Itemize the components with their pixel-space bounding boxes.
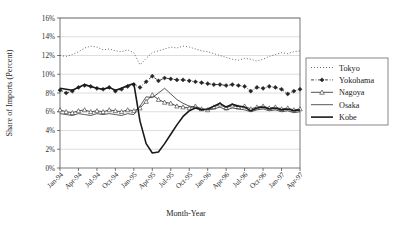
series-layer [58,46,302,153]
marker-diamond [181,78,185,82]
marker-diamond [175,78,179,82]
marker-diamond [156,79,160,83]
marker-diamond [292,89,296,93]
x-axis-title: Month-Year [166,209,206,218]
x-axis-tick-label: Apr-95 [137,170,158,191]
marker-diamond [138,85,142,89]
marker-diamond [230,82,234,86]
x-axis-tick-label: Jan-95 [120,170,139,189]
y-axis-tick-label: 10% [42,71,55,79]
line-chart: 0%2%4%6%8%10%12%14%16% Jan-94Apr-94Jul-9… [0,0,408,226]
marker-triangle [58,108,62,112]
series-kobe [60,84,300,153]
y-axis-title: Share of Imports (Percent) [5,49,14,136]
x-axis-tick-label: Oct-96 [248,170,268,190]
marker-diamond [206,82,210,86]
legend-label-nagoya: Nagoya [339,88,365,97]
legend-label-kobe: Kobe [339,113,357,122]
series-line-kobe [60,84,300,153]
x-axis-tick-label: Jul-94 [83,170,102,189]
y-axis-tick-label: 4% [45,127,55,135]
x-axis-tick-label: Jul-96 [231,170,250,189]
marker-diamond [169,77,173,81]
marker-diamond [187,79,191,83]
marker-diamond [163,76,167,80]
marker-diamond [273,85,277,89]
y-axis-tick-label: 6% [45,108,55,116]
marker-diamond [286,92,290,96]
x-axis-tick-label: Apr-96 [211,170,232,191]
y-axis-tick-label: 8% [45,90,55,98]
x-axis-ticks [60,168,300,171]
series-nagoya [58,93,302,115]
marker-diamond [298,87,302,91]
series-line-yokohama [60,76,300,94]
marker-diamond [212,82,216,86]
x-axis-tick-label: Apr-97 [285,170,306,191]
marker-diamond [224,83,228,87]
marker-diamond [255,85,259,89]
legend-label-yokohama: Yokohama [339,76,374,85]
y-axis-tick-labels: 0%2%4%6%8%10%12%14%16% [42,15,55,173]
x-axis-tick-label: Jan-94 [46,170,65,189]
marker-diamond [267,84,271,88]
y-axis-tick-label: 16% [42,15,55,23]
chart-figure: 0%2%4%6%8%10%12%14%16% Jan-94Apr-94Jul-9… [0,0,408,226]
marker-diamond [199,81,203,85]
x-axis-tick-label: Jan-96 [193,170,212,189]
x-axis-tick-label: Jan-97 [267,170,286,189]
marker-diamond [64,91,68,95]
marker-diamond [236,83,240,87]
x-axis-tick-label: Jul-95 [157,170,176,189]
legend-label-osaka: Osaka [339,101,360,110]
gridlines [57,18,300,168]
marker-diamond [261,86,265,90]
marker-diamond [218,82,222,86]
chart-legend: TokyoYokohamaNagoyaOsakaKobe [306,58,388,125]
y-axis-tick-label: 2% [45,146,55,154]
x-axis-tick-label: Oct-94 [101,170,121,190]
marker-diamond [193,80,197,84]
legend-label-tokyo: Tokyo [339,64,360,73]
y-axis-tick-label: 14% [42,33,55,41]
x-axis-tick-label: Oct-95 [174,170,194,190]
x-axis-tick-label: Apr-94 [63,170,84,191]
marker-diamond [243,84,247,88]
y-axis-tick-label: 0% [45,165,55,173]
y-axis-tick-label: 12% [42,52,55,60]
x-axis-tick-labels: Jan-94Apr-94Jul-94Oct-94Jan-95Apr-95Jul-… [46,170,305,191]
